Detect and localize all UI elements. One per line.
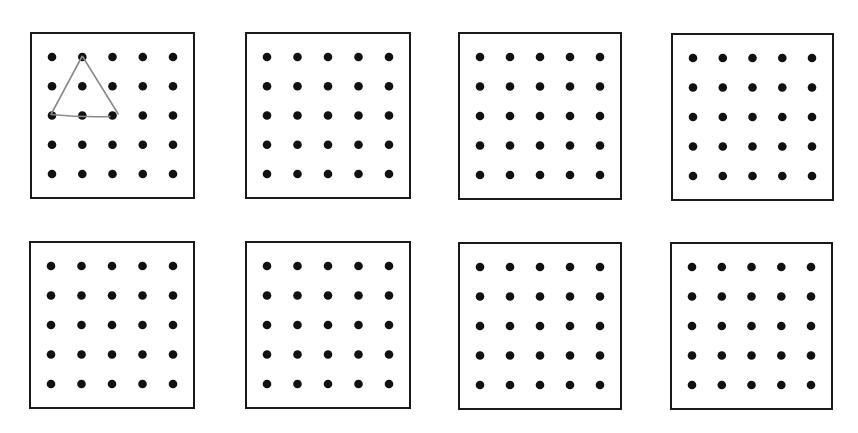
peg-dot	[169, 350, 178, 359]
peg-dot	[48, 53, 57, 62]
peg-dot	[139, 170, 148, 179]
peg-dot	[108, 170, 117, 179]
peg-dot	[476, 381, 485, 390]
peg-dot	[476, 82, 485, 91]
peg-dot	[476, 263, 485, 272]
peg-dot	[108, 141, 117, 150]
geoboard-1	[30, 32, 195, 199]
peg-dot	[748, 83, 757, 92]
peg-dot	[354, 350, 363, 359]
peg-dot	[324, 141, 333, 150]
peg-dot	[476, 292, 485, 301]
peg-dot	[354, 380, 363, 389]
peg-dot	[596, 82, 605, 91]
peg-dot	[169, 380, 178, 389]
geoboard-2	[245, 32, 411, 199]
peg-dot	[263, 380, 272, 389]
peg-dot	[536, 263, 545, 272]
peg-grid	[32, 34, 197, 201]
peg-dot	[293, 262, 302, 271]
peg-dot	[354, 291, 363, 300]
peg-dot	[385, 82, 394, 91]
peg-dot	[385, 350, 394, 359]
peg-dot	[108, 111, 117, 120]
peg-dot	[108, 53, 117, 62]
peg-grid	[673, 35, 836, 203]
peg-dot	[139, 111, 148, 120]
peg-dot	[263, 350, 272, 359]
geoboard-8	[670, 242, 833, 410]
peg-dot	[476, 171, 485, 180]
peg-dot	[108, 350, 117, 359]
peg-dot	[596, 141, 605, 150]
peg-dot	[536, 141, 545, 150]
peg-dot	[324, 170, 333, 179]
peg-dot	[169, 321, 178, 330]
peg-dot	[689, 172, 698, 181]
peg-dot	[293, 350, 302, 359]
peg-dot	[536, 82, 545, 91]
peg-dot	[108, 291, 117, 300]
peg-dot	[719, 142, 728, 151]
peg-dot	[385, 262, 394, 271]
peg-dot	[78, 141, 87, 150]
peg-dot	[778, 83, 787, 92]
peg-dot	[808, 142, 817, 151]
peg-dot	[138, 262, 147, 271]
peg-dot	[506, 322, 515, 331]
peg-dot	[777, 351, 786, 360]
peg-dot	[596, 53, 605, 62]
peg-dot	[78, 170, 87, 179]
peg-dot	[385, 53, 394, 62]
peg-dot	[138, 350, 147, 359]
peg-dot	[689, 142, 698, 151]
peg-dot	[108, 82, 117, 91]
peg-dot	[78, 82, 87, 91]
peg-dot	[324, 321, 333, 330]
peg-dot	[778, 142, 787, 151]
peg-dot	[807, 381, 816, 390]
peg-dot	[293, 291, 302, 300]
peg-dot	[48, 170, 57, 179]
peg-dot	[293, 170, 302, 179]
peg-dot	[293, 321, 302, 330]
peg-dot	[263, 53, 272, 62]
peg-dot	[385, 141, 394, 150]
peg-dot	[324, 262, 333, 271]
peg-dot	[47, 262, 56, 271]
peg-dot	[385, 380, 394, 389]
peg-dot	[718, 292, 727, 301]
peg-dot	[324, 380, 333, 389]
peg-dot	[506, 263, 515, 272]
peg-dot	[293, 141, 302, 150]
peg-dot	[263, 82, 272, 91]
peg-dot	[476, 351, 485, 360]
peg-dot	[354, 53, 363, 62]
peg-grid	[31, 243, 197, 411]
peg-dot	[506, 53, 515, 62]
peg-dot	[596, 351, 605, 360]
peg-dot	[354, 170, 363, 179]
peg-dot	[293, 82, 302, 91]
peg-dot	[536, 53, 545, 62]
peg-dot	[108, 262, 117, 271]
geoboard-4	[671, 33, 834, 201]
peg-dot	[169, 141, 178, 150]
peg-dot	[354, 111, 363, 120]
peg-dot	[385, 291, 394, 300]
peg-dot	[718, 351, 727, 360]
peg-dot	[169, 82, 178, 91]
peg-dot	[689, 54, 698, 63]
peg-dot	[778, 113, 787, 122]
peg-dot	[596, 263, 605, 272]
peg-dot	[777, 322, 786, 331]
peg-dot	[688, 292, 697, 301]
peg-dot	[596, 322, 605, 331]
peg-dot	[138, 291, 147, 300]
peg-dot	[506, 112, 515, 121]
peg-dot	[688, 322, 697, 331]
peg-dot	[77, 350, 86, 359]
peg-dot	[777, 263, 786, 272]
peg-dot	[566, 351, 575, 360]
peg-dot	[324, 111, 333, 120]
